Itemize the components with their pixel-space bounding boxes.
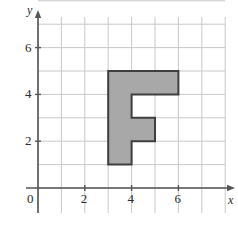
x-tick-label-2: 2 [81,192,88,205]
x-axis-label: x [228,194,233,207]
y-axis-label: y [27,4,32,17]
x-tick-label-6: 6 [174,192,181,205]
axis-ticks [35,48,178,191]
y-tick-label-6: 6 [25,41,32,54]
y-tick-label-2: 2 [25,134,32,147]
figure-canvas: y x 0 2 4 6 2 4 6 [0,0,238,231]
x-tick-label-4: 4 [128,192,135,205]
y-tick-label-4: 4 [25,87,32,100]
origin-tick-label: 0 [27,192,34,205]
coordinate-plot [0,0,238,231]
